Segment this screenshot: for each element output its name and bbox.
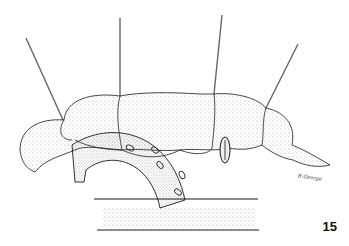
bowel-segment: [20, 93, 330, 172]
figure-number: 15: [323, 219, 337, 234]
suture-4: [266, 44, 298, 108]
surgical-illustration: [0, 0, 349, 246]
abdominal-wall: [94, 199, 259, 230]
suture-3: [214, 15, 222, 94]
suture-1: [26, 38, 63, 120]
instrument: [220, 137, 230, 163]
